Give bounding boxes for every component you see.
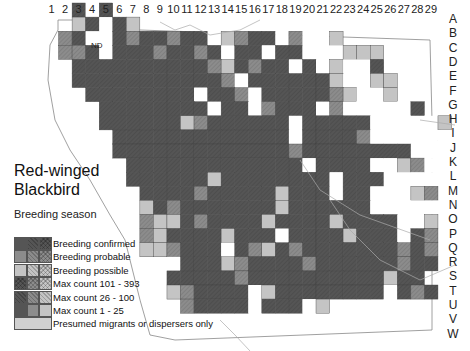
legend-swatch (27, 264, 40, 277)
grid-cell-hatch (235, 31, 249, 45)
row-label-E: E (446, 70, 460, 83)
grid-cell-hatch (316, 229, 330, 243)
grid-cell-hatch (167, 200, 181, 214)
grid-cell-hatch (153, 172, 167, 186)
grid-cell-hatch (167, 116, 181, 130)
grid-cell-hatch (275, 243, 289, 257)
grid-cell-hatch (289, 299, 303, 313)
grid-cell-R9 (153, 243, 167, 257)
grid-cell-G24 (357, 88, 371, 102)
grid-cell-hatch (397, 271, 411, 285)
grid-cell-U17 (262, 285, 276, 299)
grid-cell-hatch (194, 45, 208, 59)
grid-cell-hatch (262, 257, 276, 271)
grid-cell-hatch (235, 243, 249, 257)
grid-cell-I25 (370, 116, 384, 130)
row-label-I: I (446, 127, 460, 140)
grid-cell-hatch (126, 144, 140, 158)
grid-cell-hatch (289, 257, 303, 271)
grid-cell-V16 (248, 299, 262, 313)
column-label-25: 25 (370, 3, 384, 15)
grid-cell-hatch (153, 74, 167, 88)
grid-cell-hatch (181, 200, 195, 214)
column-label-7: 7 (126, 3, 140, 15)
grid-cell-hatch (330, 144, 344, 158)
grid-cell-D17 (262, 45, 276, 59)
grid-cell-C14 (221, 31, 235, 45)
grid-cell-hatch (113, 59, 127, 73)
grid-cell-D23 (343, 45, 357, 59)
grid-cell-hatch (153, 88, 167, 102)
grid-cell-J19 (289, 130, 303, 144)
grid-cell-J26 (384, 130, 398, 144)
grid-cell-E24 (357, 59, 371, 73)
grid-cell-hatch (275, 88, 289, 102)
legend-swatch (14, 237, 27, 250)
grid-cell-hatch (343, 243, 357, 257)
grid-cell-H24 (357, 102, 371, 116)
grid-cell-hatch (153, 200, 167, 214)
grid-cell-K29 (424, 144, 438, 158)
grid-cell-hatch (208, 74, 222, 88)
grid-cell-hatch (86, 59, 100, 73)
grid-cell-hatch (330, 158, 344, 172)
grid-cell-H13 (208, 102, 222, 116)
grid-cell-M26 (384, 172, 398, 186)
grid-cell-hatch (411, 285, 425, 299)
grid-cell-F15 (235, 74, 249, 88)
grid-cell-hatch (113, 130, 127, 144)
grid-cell-hatch (370, 172, 384, 186)
grid-cell-hatch (357, 116, 371, 130)
grid-cell-hatch (181, 271, 195, 285)
grid-cell-hatch (181, 158, 195, 172)
grid-cell-E22 (330, 59, 344, 73)
grid-cell-hatch (343, 144, 357, 158)
grid-cell-hatch (221, 285, 235, 299)
grid-cell-F26 (384, 74, 398, 88)
grid-cell-hatch (289, 285, 303, 299)
grid-cell-hatch (370, 257, 384, 271)
grid-cell-hatch (126, 45, 140, 59)
grid-cell-hatch (194, 116, 208, 130)
grid-cell-hatch (194, 299, 208, 313)
grid-cell-M13 (208, 172, 222, 186)
legend-swatch (39, 250, 52, 263)
map-subtitle: Breeding season (14, 208, 97, 220)
grid-cell-hatch (424, 229, 438, 243)
grid-cell-hatch (126, 116, 140, 130)
grid-cell-hatch (357, 285, 371, 299)
grid-cell-hatch (330, 130, 344, 144)
grid-cell-J29 (424, 130, 438, 144)
grid-cell-hatch (167, 186, 181, 200)
grid-cell-hatch (194, 243, 208, 257)
grid-cell-hatch (194, 102, 208, 116)
grid-cell-V20 (302, 299, 316, 313)
grid-cell-K28 (411, 144, 425, 158)
grid-cell-hatch (343, 285, 357, 299)
grid-cell-O25 (370, 200, 384, 214)
grid-cell-hatch (289, 271, 303, 285)
grid-cell-hatch (194, 130, 208, 144)
grid-cell-hatch (302, 88, 316, 102)
grid-cell-hatch (235, 229, 249, 243)
grid-cell-hatch (262, 130, 276, 144)
grid-cell-hatch (370, 215, 384, 229)
grid-cell-hatch (330, 102, 344, 116)
column-label-27: 27 (397, 3, 411, 15)
grid-cell-hatch (235, 172, 249, 186)
grid-cell-hatch (357, 243, 371, 257)
grid-cell-hatch (411, 271, 425, 285)
grid-cell-hatch (262, 31, 276, 45)
grid-cell-hatch (316, 158, 330, 172)
column-label-10: 10 (166, 3, 180, 15)
grid-cell-hatch (235, 186, 249, 200)
grid-cell-hatch (194, 31, 208, 45)
grid-cell-D20 (302, 45, 316, 59)
grid-cell-N26 (384, 186, 398, 200)
grid-cell-hatch (289, 229, 303, 243)
column-label-1: 1 (45, 3, 59, 15)
grid-cell-hatch (316, 186, 330, 200)
column-label-15: 15 (234, 3, 248, 15)
row-label-D: D (446, 56, 460, 69)
grid-cell-hatch (99, 88, 113, 102)
